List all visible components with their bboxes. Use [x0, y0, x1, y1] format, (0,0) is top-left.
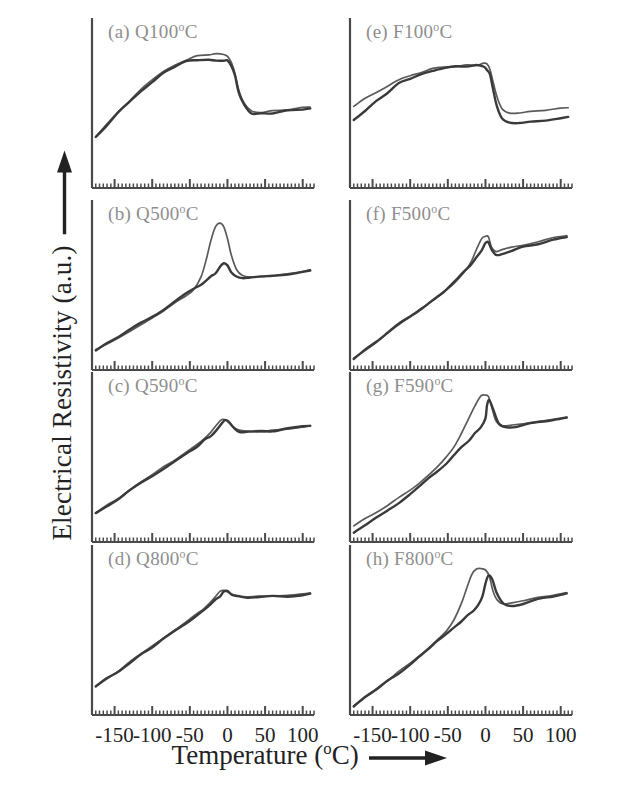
panel-label-text: (h) F800: [366, 548, 434, 569]
panel-label-h: (h) F800oC: [366, 548, 454, 570]
curve-d-heating: [96, 591, 310, 687]
degree-symbol: o: [323, 739, 331, 758]
x-axis-label-tail: C): [332, 740, 359, 770]
panel-label-unit: C: [185, 21, 198, 42]
panel-label-text: (b) Q500: [108, 203, 180, 224]
panel-label-g: (g) F590oC: [366, 375, 454, 397]
panel-label-unit: C: [185, 375, 198, 396]
y-axis-label-group: Electrical Resistivity (a.u.): [0, 0, 90, 700]
y-axis-label-text: Electrical Resistivity (a.u.): [47, 245, 77, 540]
panel-label-text: (a) Q100: [108, 21, 178, 42]
right-arrow-icon: [369, 750, 447, 766]
panel-label-d: (d) Q800oC: [108, 548, 199, 570]
panel-label-unit: C: [186, 548, 199, 569]
curve-h-cooling: [354, 568, 567, 705]
up-arrow-icon: [56, 150, 72, 234]
curve-b-heating: [96, 263, 310, 350]
curve-a-cooling: [96, 54, 310, 137]
curve-c-heating: [96, 420, 310, 513]
x-axis-label-text: Temperature (: [172, 740, 324, 770]
panel-label-a: (a) Q100oC: [108, 21, 198, 43]
figure-root: Electrical Resistivity (a.u.) (a) Q100oC…: [0, 0, 619, 787]
y-axis-label: Electrical Resistivity (a.u.): [47, 36, 78, 656]
x-axis-label: Temperature (oC): [0, 740, 619, 771]
panel-label-text: (c) Q590: [108, 375, 178, 396]
panel-label-text: (d) Q800: [108, 548, 180, 569]
panel-label-unit: C: [441, 375, 454, 396]
curve-f-heating: [354, 237, 567, 359]
panel-label-unit: C: [441, 548, 454, 569]
panel-label-text: (g) F590: [366, 375, 434, 396]
curve-g-cooling: [354, 395, 567, 526]
curve-f-cooling: [354, 236, 567, 358]
panel-label-e: (e) F100oC: [366, 21, 452, 43]
panel-label-f: (f) F500oC: [366, 203, 450, 225]
curve-e-heating: [354, 65, 568, 123]
curve-c-cooling: [96, 419, 310, 513]
panel-label-unit: C: [440, 21, 453, 42]
panel-label-unit: C: [186, 203, 199, 224]
panel-label-unit: C: [437, 203, 450, 224]
panel-label-text: (e) F100: [366, 21, 433, 42]
curve-d-cooling: [96, 590, 310, 686]
panel-label-b: (b) Q500oC: [108, 203, 199, 225]
panel-label-c: (c) Q590oC: [108, 375, 198, 397]
curve-a-heating: [96, 60, 310, 137]
curve-h-heating: [354, 575, 567, 706]
curve-e-cooling: [354, 63, 568, 113]
panel-label-text: (f) F500: [366, 203, 431, 224]
curve-g-heating: [354, 400, 567, 533]
